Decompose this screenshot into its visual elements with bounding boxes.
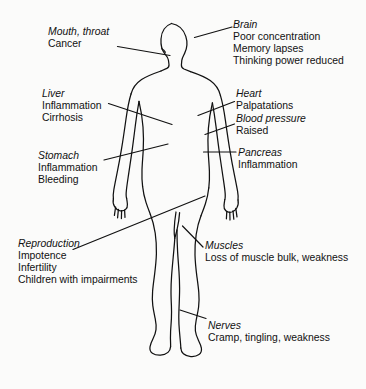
leg-left-outer (150, 214, 171, 355)
callout-organ-reproduction: Reproduction (18, 238, 138, 250)
leader-heart (198, 102, 235, 116)
callout-organ-blood-pressure: Blood pressure (236, 113, 306, 125)
callout-symptom-reproduction-2: Children with impairments (18, 274, 138, 286)
callout-organ-nerves: Nerves (208, 320, 330, 332)
callout-reproduction: Reproduction Impotence Infertility Child… (18, 238, 138, 286)
callout-symptom-nerves-0: Cramp, tingling, weakness (208, 332, 330, 344)
callout-organ-muscles: Muscles (205, 240, 348, 252)
callout-organ-heart: Heart (236, 88, 293, 100)
callout-brain: Brain Poor concentration Memory lapses T… (233, 19, 344, 67)
callout-symptom-brain-0: Poor concentration (233, 31, 344, 43)
callout-symptom-reproduction-0: Impotence (18, 250, 138, 262)
callout-stomach: Stomach Inflammation Bleeding (38, 150, 97, 186)
neck-shoulder-right (191, 72, 221, 96)
leader-brain (195, 27, 233, 38)
callout-symptom-liver-1: Cirrhosis (42, 112, 101, 124)
callout-mouth-throat: Mouth, throat Cancer (48, 26, 109, 50)
leg-left-inner (170, 238, 174, 346)
head-outline (161, 24, 172, 72)
callout-symptom-stomach-1: Bleeding (38, 174, 97, 186)
leader-blood-pressure (205, 124, 235, 135)
callout-symptom-brain-2: Thinking power reduced (233, 55, 344, 67)
diagram-canvas: Mouth, throat Cancer Brain Poor concentr… (0, 0, 366, 389)
arm-left-inner (126, 101, 139, 198)
hip-left (143, 186, 151, 214)
leader-nerves (180, 310, 206, 319)
callout-pancreas: Pancreas Inflammation (238, 147, 297, 171)
callout-organ-stomach: Stomach (38, 150, 97, 162)
callout-organ-mouth-throat: Mouth, throat (48, 26, 109, 38)
callout-organ-pancreas: Pancreas (238, 147, 297, 159)
callout-symptom-mouth-throat-0: Cancer (48, 38, 109, 50)
hip-right (201, 188, 209, 216)
neck-shoulder-left (131, 71, 161, 94)
callout-symptom-stomach-0: Inflammation (38, 162, 97, 174)
leader-stomach (104, 144, 168, 160)
callout-organ-brain: Brain (233, 19, 344, 31)
callout-symptom-liver-0: Inflammation (42, 100, 101, 112)
leader-muscles (183, 226, 204, 247)
callout-symptom-reproduction-1: Infertility (18, 262, 138, 274)
head-outline-right (172, 24, 191, 72)
leg-right-outer (181, 216, 202, 357)
callout-organ-liver: Liver (42, 88, 101, 100)
callout-liver: Liver Inflammation Cirrhosis (42, 88, 101, 124)
callout-symptom-heart-0: Palpatations (236, 100, 293, 112)
callout-symptom-blood-pressure-0: Raised (236, 125, 306, 137)
torso-right-side (208, 103, 212, 188)
callout-nerves: Nerves Cramp, tingling, weakness (208, 320, 330, 344)
callout-symptom-brain-1: Memory lapses (233, 43, 344, 55)
callout-symptom-pancreas-0: Inflammation (238, 159, 297, 171)
leg-right-inner (177, 230, 181, 348)
callout-muscles: Muscles Loss of muscle bulk, weakness (205, 240, 348, 264)
callout-symptom-muscles-0: Loss of muscle bulk, weakness (205, 252, 348, 264)
arm-right-inner (212, 103, 225, 200)
callout-blood-pressure: Blood pressure Raised (236, 113, 306, 137)
callout-heart: Heart Palpatations (236, 88, 293, 112)
